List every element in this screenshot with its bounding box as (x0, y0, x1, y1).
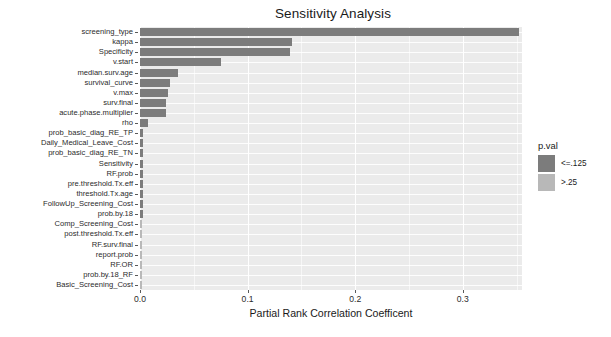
y-axis-tick (135, 275, 138, 276)
bar (140, 271, 142, 279)
y-axis-tick (135, 83, 138, 84)
gridline-vertical-minor (301, 27, 302, 290)
y-axis-tick (135, 123, 138, 124)
gridline-horizontal (140, 184, 522, 185)
gridline-vertical-major (355, 27, 356, 290)
y-axis-tick (135, 113, 138, 114)
y-axis-tick (135, 93, 138, 94)
y-axis-tick (135, 164, 138, 165)
bar (140, 109, 166, 117)
gridline-horizontal (140, 224, 522, 225)
y-axis-tick-label: pre.threshold.Tx.eff (68, 179, 133, 188)
bar (140, 241, 142, 249)
y-axis-tick (135, 73, 138, 74)
y-axis-tick (135, 174, 138, 175)
bar (140, 220, 142, 228)
x-axis-tick-label: 0.1 (242, 294, 254, 304)
bar (140, 200, 143, 208)
y-axis-tick-label: prob_basic_diag_RE_TN (48, 148, 133, 157)
bar (140, 69, 178, 77)
bar (140, 28, 519, 36)
gridline-horizontal (140, 83, 522, 84)
gridline-horizontal (140, 204, 522, 205)
y-axis-labels: screening_typekappaSpecificityv.startmed… (0, 27, 133, 290)
gridline-horizontal (140, 123, 522, 124)
bar (140, 180, 143, 188)
chart-title: Sensitivity Analysis (138, 6, 528, 21)
y-axis-tick (135, 255, 138, 256)
x-axis-tick-label: 0.2 (349, 294, 361, 304)
y-axis-tick (135, 224, 138, 225)
bar (140, 139, 143, 147)
y-axis-tick-label: FollowUp_Screening_Cost (43, 199, 133, 208)
y-axis-tick (135, 245, 138, 246)
gridline-horizontal (140, 174, 522, 175)
plot-panel (140, 27, 522, 290)
y-axis-tick-label: surv.final (103, 98, 133, 107)
y-axis-tick-label: survival_curve (84, 78, 133, 87)
bar (140, 119, 148, 127)
y-axis-tick (135, 234, 138, 235)
gridline-horizontal (140, 285, 522, 286)
y-axis-tick-label: v.max (113, 88, 133, 97)
y-axis-tick-label: prob_basic_diag_RE_TP (49, 128, 133, 137)
y-axis-tick (135, 204, 138, 205)
y-axis-tick (135, 285, 138, 286)
y-axis-tick (135, 133, 138, 134)
bar (140, 230, 142, 238)
bar (140, 261, 142, 269)
gridline-horizontal (140, 164, 522, 165)
bar (140, 251, 142, 259)
y-axis-tick-label: prob.by.18_RF (83, 270, 133, 279)
legend-item: <=.125 (538, 155, 608, 172)
y-axis-tick-label: acute.phase.multiplier (59, 108, 133, 117)
bar (140, 160, 143, 168)
y-axis-tick (135, 103, 138, 104)
y-axis-tick-label: post.threshold.Tx.eff (64, 229, 133, 238)
gridline-vertical-minor (409, 27, 410, 290)
bar (140, 58, 221, 66)
y-axis-tick-label: prob.by.18 (98, 209, 133, 218)
y-axis-tick-label: RF.OR (110, 260, 133, 269)
y-axis-tick-label: median.surv.age (77, 68, 133, 77)
x-axis-tick (140, 290, 141, 293)
y-axis-tick-label: RF.prob (106, 169, 133, 178)
x-axis-title: Partial Rank Correlation Coefficent (140, 307, 522, 319)
y-axis-tick-label: kappa (112, 37, 133, 46)
y-axis-tick-label: v.start (113, 57, 133, 66)
y-axis-tick (135, 194, 138, 195)
x-axis-tick (355, 290, 356, 293)
y-axis-tick-label: threshold.Tx.age (76, 189, 133, 198)
bar (140, 89, 168, 97)
bar (140, 99, 166, 107)
y-axis-tick-label: rho (122, 118, 133, 127)
y-axis-tick-label: Basic_Screening_Cost (56, 280, 133, 289)
gridline-vertical-minor (194, 27, 195, 290)
y-axis-tick-label: Daily_Medical_Leave_Cost (41, 138, 133, 147)
legend-color-swatch (538, 155, 555, 172)
legend-item: >.25 (538, 174, 608, 191)
gridline-horizontal (140, 143, 522, 144)
sensitivity-analysis-figure: Sensitivity Analysis screening_typekappa… (0, 0, 611, 337)
legend-title: p.val (538, 140, 608, 151)
y-axis-tick-label: RF.surv.final (92, 240, 133, 249)
bar (140, 190, 143, 198)
x-axis-tick-label: 0.3 (457, 294, 469, 304)
gridline-horizontal (140, 245, 522, 246)
gridline-vertical-major (463, 27, 464, 290)
gridline-horizontal (140, 214, 522, 215)
legend-color-swatch (538, 174, 555, 191)
gridline-horizontal (140, 153, 522, 154)
bar (140, 129, 143, 137)
gridline-horizontal (140, 103, 522, 104)
y-axis-tick-label: Comp_Screening_Cost (54, 219, 133, 228)
x-axis-tick (463, 290, 464, 293)
bar (140, 281, 142, 289)
bar (140, 48, 290, 56)
y-axis-tick-label: Specificity (99, 47, 133, 56)
gridline-horizontal (140, 113, 522, 114)
gridline-vertical-major (248, 27, 249, 290)
y-axis-tick (135, 143, 138, 144)
bar (140, 149, 143, 157)
y-axis-tick (135, 62, 138, 63)
